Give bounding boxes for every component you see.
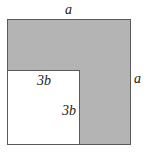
square-diagram: a a 3b 3b: [0, 0, 149, 152]
label-top-side: a: [65, 3, 72, 17]
diagram-canvas: [0, 0, 149, 152]
label-right-side: a: [134, 72, 141, 86]
label-inner-right: 3b: [62, 104, 76, 118]
label-inner-top: 3b: [37, 74, 51, 88]
